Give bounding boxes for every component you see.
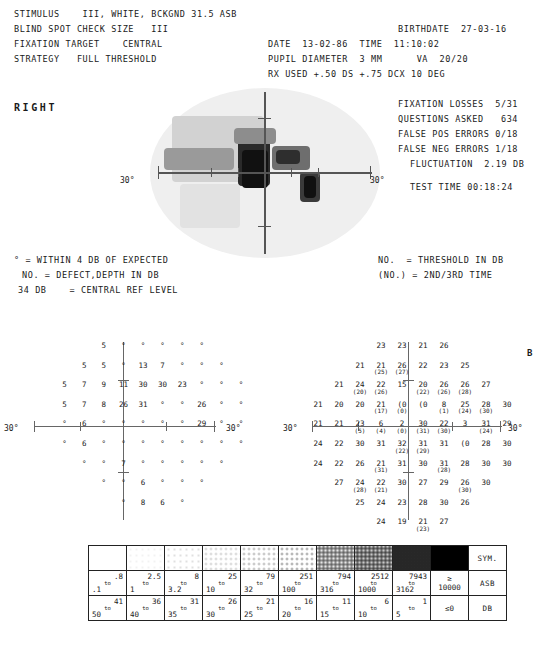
db-bottom: 20 [279, 611, 316, 619]
axis-tick-right-inner [291, 168, 292, 177]
grid-cell: 25 [456, 362, 474, 370]
grid-cell: ° [154, 420, 172, 428]
grid-cell: ° [212, 381, 230, 389]
shade-superior-cap [234, 128, 276, 144]
db-cell: 21to25 [241, 596, 279, 621]
grid-cell: ° [134, 440, 152, 448]
eye-label: RIGHT [14, 102, 57, 113]
grid-cell-value: 30 [158, 380, 167, 389]
grid-cell: ° [154, 460, 172, 468]
grid-cell: ° [232, 401, 250, 409]
grid-cell: 27 [330, 479, 348, 487]
grid-cell-value: ° [102, 459, 107, 468]
grid-cell: 6 [75, 440, 93, 448]
grid-cell-value: 23 [397, 341, 406, 350]
grid-cell: 31 [393, 460, 411, 468]
grid-cell-value: ° [160, 419, 165, 428]
false-neg-errors: FALSE NEG ERRORS 1/18 [398, 143, 518, 156]
grid-cell-value: ° [160, 400, 165, 409]
grid-cell-value: ° [160, 478, 165, 487]
grid-cell: 30(31) [414, 420, 432, 434]
grid-cell-value: ° [180, 419, 185, 428]
grid-cell-value: ° [239, 439, 244, 448]
asb-row: .8to.12.5to18to3.225to1079to32251to10079… [89, 571, 507, 596]
grid-cell: ° [134, 342, 152, 350]
grid-cell-value: 22 [334, 459, 343, 468]
grid-cell-value: ° [200, 478, 205, 487]
grid-cell: ° [154, 479, 172, 487]
grid-cell: ° [212, 401, 230, 409]
asb-bottom: 32 [241, 586, 278, 594]
grid-cell: ° [114, 479, 132, 487]
grid-cell: 22(30) [435, 420, 453, 434]
grid-cell: 22(26) [372, 381, 390, 395]
grid-cell: 26(27) [393, 362, 411, 376]
grid-cell: ° [134, 460, 152, 468]
grid-cell: ° [173, 420, 191, 428]
grid-cell: 21(25) [372, 362, 390, 376]
grid-cell-value: 21 [418, 341, 427, 350]
grid-cell: ° [95, 460, 113, 468]
grid-cell-value: ° [141, 419, 146, 428]
grid-cell: 28 [414, 499, 432, 507]
asb-bottom: 3.2 [165, 586, 202, 594]
asb-cell: 7943to3162 [393, 571, 431, 596]
grid-cell-value: ° [121, 341, 126, 350]
grid-cell-value: ° [200, 380, 205, 389]
grid-cell-value: ° [160, 459, 165, 468]
grid-cell: ° [95, 440, 113, 448]
grid-cell-value: 7 [82, 400, 87, 409]
asb-bottom: 1000 [355, 586, 392, 594]
db-cell: 11to15 [317, 596, 355, 621]
grid-cell-value: ° [219, 400, 224, 409]
grid-cell: 21 [330, 420, 348, 428]
grid-cell-retest: (31) [414, 427, 432, 435]
grid-cell-value: ° [180, 498, 185, 507]
grid-cell: ° [173, 401, 191, 409]
grid-cell-value: 24 [376, 498, 385, 507]
grid-cell-value: 5 [82, 361, 87, 370]
grid-cell-value: ° [141, 439, 146, 448]
grid-cell-value: 6 [141, 478, 146, 487]
grid-cell: ° [193, 460, 211, 468]
grid-cell: ° [212, 440, 230, 448]
db-cell: 6to10 [355, 596, 393, 621]
grid-cell: (0 [456, 440, 474, 448]
grid-cell-retest: (24) [456, 407, 474, 415]
grid-cell: 30 [414, 460, 432, 468]
grid-cell-retest: (28) [351, 486, 369, 494]
grid-cell-value: 28 [481, 439, 490, 448]
grid-cell: 26 [193, 401, 211, 409]
legend-right-0: NO. = THRESHOLD IN DB [378, 254, 504, 267]
grid-cell: 23 [372, 342, 390, 350]
grid-cell-value: ° [62, 439, 67, 448]
grid-cell-value: 30 [481, 459, 490, 468]
db-bottom: 5 [393, 611, 430, 619]
asb-cell: 794to316 [317, 571, 355, 596]
grid-cell: ° [154, 342, 172, 350]
grid-cell-value: ° [62, 419, 67, 428]
grid-cell-retest: (5) [351, 427, 369, 435]
shade-blind-spot-core [304, 176, 316, 198]
grid-cell: 22 [330, 460, 348, 468]
grid-cell: 23(5) [351, 420, 369, 434]
grid-cell: 31(29) [414, 440, 432, 454]
grid-cell-value: 24 [313, 459, 322, 468]
grid-cell-value: ° [200, 361, 205, 370]
grid-cell: 15 [393, 381, 411, 389]
asb-cell: .8to.1 [89, 571, 127, 596]
symbol-row-label: SYM. [469, 546, 507, 571]
grid-cell: 26(30) [456, 479, 474, 493]
db-bottom: 15 [317, 611, 354, 619]
threshold-grid: 232321262121(25)26(27)2223252124(20)22(2… [296, 340, 536, 530]
grid-cell-value: ° [180, 439, 185, 448]
grid-cell-value: 6 [160, 498, 165, 507]
grid-cell: 24 [309, 440, 327, 448]
grid-cell: 25 [351, 499, 369, 507]
grid-cell: ° [193, 362, 211, 370]
grid-cell-value: 30 [355, 439, 364, 448]
fluctuation: FLUCTUATION 2.19 DB [410, 158, 524, 171]
grid-cell-value: ° [121, 478, 126, 487]
header-blind-spot: BLIND SPOT CHECK SIZE III [14, 23, 168, 36]
asb-cell: 25to10 [203, 571, 241, 596]
